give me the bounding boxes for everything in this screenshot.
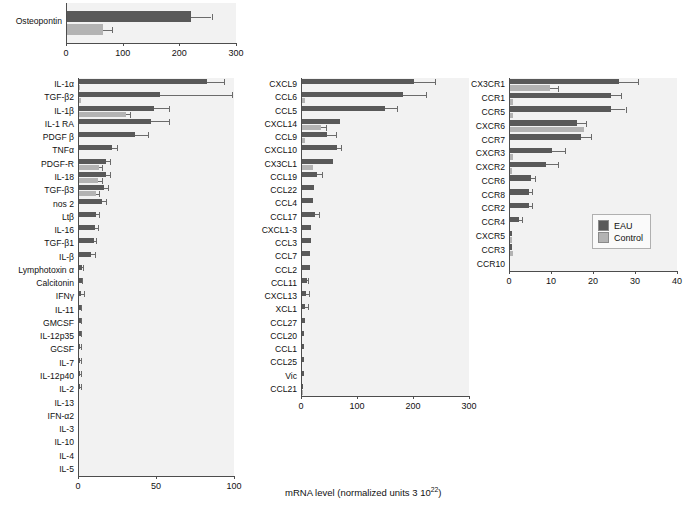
category-label: CXCL1-3 — [262, 226, 297, 235]
error-bar-cap — [81, 318, 82, 324]
bar-eau — [302, 357, 304, 362]
axis-tick — [357, 396, 358, 399]
legend-swatch-eau — [598, 220, 609, 231]
category-label: CCL27 — [270, 319, 297, 328]
bar-eau — [510, 217, 519, 223]
error-bar-cap — [535, 176, 536, 182]
error-bar-cap — [309, 291, 310, 297]
axis-tick-label: 100 — [349, 401, 364, 411]
error-bar-cap — [106, 199, 107, 205]
error-bar-cap — [95, 252, 96, 258]
category-label: CXCR5 — [476, 232, 505, 241]
axis-tick — [236, 43, 237, 46]
bar-control — [510, 127, 584, 133]
x-axis-caption-close: ) — [438, 487, 441, 498]
panel-cytokines: IL-1αTGF-β2IL-1βIL-1 RAPDGF βTNFαPDGF-RI… — [0, 78, 250, 498]
axis-tick — [301, 396, 302, 399]
bar-eau — [302, 159, 333, 164]
axis-tick — [413, 396, 414, 399]
category-label: IL-β — [59, 253, 74, 262]
category-label: TNFα — [52, 146, 74, 155]
bar-eau — [302, 92, 403, 97]
panel-osteopontin: Osteopontin 0100200300 — [0, 0, 250, 62]
axis-tick — [677, 271, 678, 274]
error-bar — [103, 30, 113, 31]
error-bar-cap — [224, 79, 225, 85]
category-label: IL-3 — [59, 425, 74, 434]
category-label: CCL9 — [275, 133, 297, 142]
error-bar-cap — [435, 79, 436, 85]
category-label: CCL3 — [275, 239, 297, 248]
axis-tick-label: 200 — [172, 48, 187, 58]
axis-tick-label: 10 — [546, 276, 556, 286]
category-label: CXCL14 — [265, 120, 297, 129]
axis-line — [66, 43, 236, 44]
bar-eau — [302, 172, 317, 177]
category-label: IL-1α — [54, 80, 74, 89]
category-label: IL-12p35 — [40, 332, 74, 341]
error-bar — [403, 95, 427, 96]
error-bar — [552, 151, 565, 152]
axis-tick-label: 20 — [588, 276, 598, 286]
category-label: CX3CL1 — [265, 160, 297, 169]
bar-eau — [510, 203, 529, 209]
axis-tick-label: 300 — [461, 401, 476, 411]
axis-tick — [593, 271, 594, 274]
axis-tick — [234, 476, 235, 479]
category-label: TGF-β1 — [44, 239, 74, 248]
error-bar-cap — [110, 172, 111, 178]
bar-eau — [302, 185, 314, 190]
category-label: CCR10 — [477, 260, 505, 269]
category-label: CXCL9 — [269, 80, 297, 89]
error-bar — [577, 123, 585, 124]
axis-tick-label: 300 — [228, 48, 243, 58]
legend-label-control: Control — [614, 233, 643, 243]
error-bar-cap — [426, 92, 427, 98]
error-bar-cap — [81, 305, 82, 311]
bar-control — [510, 154, 513, 160]
axis-tick-label: 200 — [405, 401, 420, 411]
error-bar-cap — [130, 112, 131, 118]
error-bar-cap — [99, 212, 100, 218]
category-label: Osteopontin — [16, 17, 62, 26]
bar-eau — [510, 93, 611, 99]
error-bar-cap — [638, 79, 639, 85]
error-bar — [154, 108, 170, 109]
x-axis-caption-text: mRNA level (normalized units 3 10 — [285, 487, 431, 498]
error-bar — [414, 82, 435, 83]
error-bar-cap — [565, 148, 566, 154]
bar-eau — [302, 132, 327, 137]
category-label: CCL1 — [275, 345, 297, 354]
error-bar — [191, 17, 212, 18]
error-bar-cap — [558, 162, 559, 168]
axis-line — [301, 396, 469, 397]
chemokine-plot-area — [301, 78, 469, 396]
bar-eau — [510, 231, 512, 237]
category-label: IL-12p40 — [40, 372, 74, 381]
bar-eau — [302, 145, 337, 150]
category-label: IL-7 — [59, 359, 74, 368]
bar-eau — [302, 331, 304, 336]
error-bar-cap — [322, 172, 323, 178]
bar-control — [510, 251, 513, 257]
axis-tick-label: 0 — [506, 276, 511, 286]
bar-eau — [510, 148, 552, 154]
category-label: CXCR6 — [476, 122, 505, 131]
bar-control — [510, 85, 550, 91]
category-label: IFN-α2 — [48, 412, 74, 421]
bar-control — [510, 113, 513, 119]
axis-tick-label: 0 — [298, 401, 303, 411]
bar-control — [510, 168, 512, 174]
category-label: TGF-β2 — [44, 93, 74, 102]
category-label: Calcitonin — [36, 279, 74, 288]
error-bar-cap — [81, 358, 82, 364]
category-label: Vic — [285, 372, 297, 381]
error-bar — [207, 82, 224, 83]
category-label: IL-5 — [59, 465, 74, 474]
error-bar — [619, 82, 638, 83]
error-bar — [135, 135, 147, 136]
category-label: CXCR2 — [476, 163, 505, 172]
bar-eau — [302, 238, 311, 243]
category-label: CXCL13 — [265, 292, 297, 301]
error-bar-cap — [81, 344, 82, 350]
